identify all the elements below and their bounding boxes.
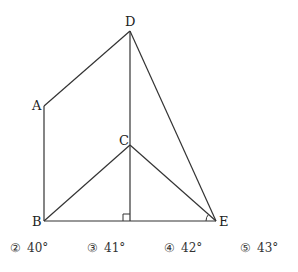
choice-3[interactable]: ③41° bbox=[87, 241, 125, 255]
answer-choices: ②40° ③41° ④42° ⑤43° bbox=[0, 241, 298, 261]
segment-DE bbox=[130, 31, 216, 221]
choice-value: 40° bbox=[27, 241, 48, 255]
point-label-E: E bbox=[219, 215, 229, 228]
point-label-D: D bbox=[125, 15, 135, 28]
choice-number: ⑤ bbox=[240, 241, 251, 255]
choice-value: 42° bbox=[181, 241, 202, 255]
choice-number: ② bbox=[10, 241, 21, 255]
segment-AD bbox=[44, 31, 130, 106]
choice-5[interactable]: ⑤43° bbox=[240, 241, 278, 255]
diagram-lines bbox=[0, 0, 298, 272]
point-label-A: A bbox=[32, 99, 41, 112]
geometry-figure: D A C B E ②40° ③41° ④42° ⑤43° bbox=[0, 0, 298, 272]
choice-number: ④ bbox=[164, 241, 175, 255]
segment-BC bbox=[44, 145, 130, 221]
choice-value: 43° bbox=[257, 241, 278, 255]
point-label-B: B bbox=[32, 215, 42, 228]
choice-value: 41° bbox=[104, 241, 125, 255]
right-angle-marker bbox=[123, 214, 130, 221]
point-label-C: C bbox=[119, 134, 129, 147]
choice-2[interactable]: ②40° bbox=[10, 241, 48, 255]
angle-arc-E bbox=[206, 214, 209, 221]
choice-number: ③ bbox=[87, 241, 98, 255]
segment-CE bbox=[130, 145, 216, 221]
choice-4[interactable]: ④42° bbox=[164, 241, 202, 255]
